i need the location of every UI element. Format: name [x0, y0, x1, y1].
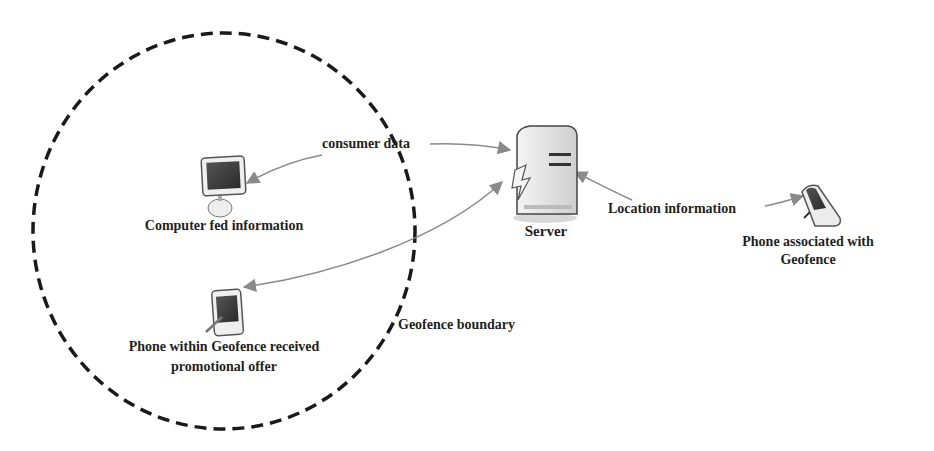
flip-phone-icon [802, 185, 840, 226]
node-label-phone-inside-line2: promotional offer [171, 358, 277, 376]
boundary-label: Geofence boundary [398, 316, 515, 334]
pda-phone-icon [206, 289, 244, 336]
node-label-phone-outside-line1: Phone associated with [742, 233, 873, 251]
edge-label-consumer-data: consumer data [322, 135, 410, 153]
node-label-computer: Computer fed information [145, 217, 303, 235]
node-label-phone-inside-line1: Phone within Geofence received [129, 338, 320, 356]
node-label-server: Server [525, 222, 567, 240]
node-label-phone-outside-line2: Geofence [780, 251, 835, 269]
location-arrow-to-server [575, 172, 632, 200]
diagram-canvas [0, 0, 934, 451]
computer-monitor-icon [201, 156, 246, 217]
location-arrow-to-phone [765, 196, 803, 206]
consumer-data-arrow-to-computer [247, 155, 322, 183]
server-icon [512, 126, 577, 223]
edge-label-location-information: Location information [608, 200, 736, 218]
consumer-data-arrow-to-server [430, 144, 510, 150]
